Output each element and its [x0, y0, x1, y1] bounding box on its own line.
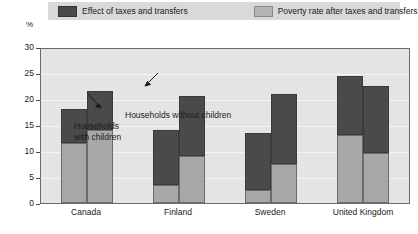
legend-item-effect: Effect of taxes and transfers: [58, 6, 188, 17]
y-tick-label-25: 25: [25, 68, 34, 78]
y-tick-5: 5: [0, 178, 40, 179]
annotation-arrows: [41, 49, 411, 205]
y-tick-label-5: 5: [29, 172, 34, 182]
y-tick-20: 20: [0, 100, 40, 101]
legend-item-poverty: Poverty rate after taxes and transfers: [254, 6, 418, 17]
x-axis-labels: Canada Finland Sweden United Kingdom: [40, 207, 410, 223]
y-axis: 30 25 20 15 10 5 0: [0, 48, 40, 205]
y-tick-label-0: 0: [29, 198, 34, 208]
y-tick-mark: [36, 204, 40, 205]
light-swatch-icon: [254, 6, 273, 17]
y-tick-label-10: 10: [25, 146, 34, 156]
y-tick-30: 30: [0, 48, 40, 49]
dark-swatch-icon: [58, 6, 77, 17]
y-tick-0: 0: [0, 204, 40, 205]
y-tick-10: 10: [0, 152, 40, 153]
chart-legend: Effect of taxes and transfers Poverty ra…: [48, 2, 400, 20]
x-label-united-kingdom: United Kingdom: [316, 207, 410, 217]
plot-area: Households with children Households with…: [40, 48, 410, 204]
y-axis-unit: %: [26, 20, 33, 29]
legend-label-effect: Effect of taxes and transfers: [82, 7, 188, 16]
legend-label-poverty: Poverty rate after taxes and transfers: [278, 7, 418, 16]
x-label-finland: Finland: [132, 207, 224, 217]
y-tick-25: 25: [0, 74, 40, 75]
y-tick-15: 15: [0, 126, 40, 127]
y-tick-label-30: 30: [25, 42, 34, 52]
y-tick-label-15: 15: [25, 120, 34, 130]
x-label-sweden: Sweden: [224, 207, 316, 217]
x-label-canada: Canada: [40, 207, 132, 217]
y-tick-label-20: 20: [25, 94, 34, 104]
